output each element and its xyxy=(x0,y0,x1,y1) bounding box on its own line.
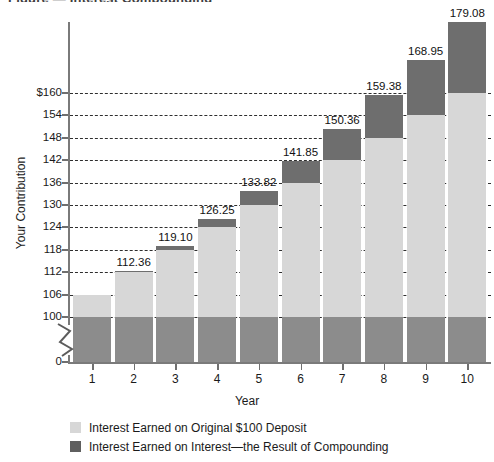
bar-value-label: 141.85 xyxy=(273,146,329,158)
bar-segment-interest-on-interest xyxy=(282,161,320,183)
bar-value-label: 133.82 xyxy=(231,176,287,188)
x-axis-line xyxy=(68,362,491,364)
bar-segment-principal xyxy=(156,317,194,362)
y-axis-line xyxy=(68,22,70,325)
bar-year-5 xyxy=(240,191,278,362)
bar-segment-original-deposit xyxy=(282,183,320,317)
bar-value-label: 112.36 xyxy=(106,256,162,268)
bar-segment-original-deposit xyxy=(407,115,445,317)
bar-segment-interest-on-interest xyxy=(407,60,445,116)
bar-segment-original-deposit xyxy=(323,160,361,317)
x-tick-mark xyxy=(217,364,219,370)
x-tick-mark xyxy=(384,364,386,370)
bar-segment-original-deposit xyxy=(156,250,194,317)
y-tick-label: 112 xyxy=(2,266,62,277)
bar-segment-interest-on-interest xyxy=(198,219,236,227)
bar-segment-interest-on-interest xyxy=(448,22,486,93)
bar-segment-interest-on-interest xyxy=(323,129,361,160)
x-tick-mark xyxy=(342,364,344,370)
legend-swatch-light-icon xyxy=(70,422,81,433)
y-tick-label: 130 xyxy=(2,199,62,210)
bar-segment-principal xyxy=(323,317,361,362)
x-tick-label: 10 xyxy=(442,372,492,386)
y-tick-label: 106 xyxy=(2,289,62,300)
bar-segment-principal xyxy=(365,317,403,362)
y-tick-label: 124 xyxy=(2,221,62,232)
x-tick-mark xyxy=(426,364,428,370)
x-tick-mark xyxy=(134,364,136,370)
legend-label-dark: Interest Earned on Interest—the Result o… xyxy=(89,440,389,454)
bar-segment-original-deposit xyxy=(448,93,486,317)
bar-segment-original-deposit xyxy=(198,227,236,317)
bar-segment-principal xyxy=(407,317,445,362)
bar-segment-interest-on-interest xyxy=(240,191,278,205)
y-tick-label: 148 xyxy=(2,132,62,143)
bar-segment-original-deposit xyxy=(365,138,403,317)
bar-segment-original-deposit xyxy=(115,272,153,317)
bar-value-label: 159.38 xyxy=(356,80,412,92)
y-tick-label: 154 xyxy=(2,109,62,120)
bar-year-6 xyxy=(282,161,320,362)
bar-value-label: 179.08 xyxy=(439,7,494,19)
x-axis-title: Year xyxy=(0,394,494,408)
axis-break-icon xyxy=(56,322,82,358)
y-tick-label: 0 xyxy=(2,356,62,367)
bar-segment-original-deposit xyxy=(240,205,278,317)
legend-swatch-dark-icon xyxy=(70,441,81,452)
bar-year-10 xyxy=(448,22,486,362)
chart-figure: Figure — Interest Compounding $160154148… xyxy=(0,0,494,462)
bar-segment-original-deposit xyxy=(73,295,111,317)
bar-segment-principal xyxy=(198,317,236,362)
bar-year-3 xyxy=(156,246,194,362)
y-axis-title: Your Contribution xyxy=(14,138,28,268)
bar-segment-principal xyxy=(448,317,486,362)
bar-segment-principal xyxy=(240,317,278,362)
x-tick-mark xyxy=(175,364,177,370)
legend-item-light: Interest Earned on Original $100 Deposit xyxy=(70,419,490,436)
bar-year-2 xyxy=(115,271,153,362)
bar-year-8 xyxy=(365,95,403,362)
bar-segment-principal xyxy=(282,317,320,362)
x-tick-mark xyxy=(92,364,94,370)
bar-value-label: 168.95 xyxy=(398,45,454,57)
bar-value-label: 126.25 xyxy=(189,204,245,216)
bar-value-label: 150.36 xyxy=(314,114,370,126)
bar-year-7 xyxy=(323,129,361,362)
x-tick-mark xyxy=(259,364,261,370)
bar-segment-interest-on-interest xyxy=(365,95,403,137)
y-tick-label: 142 xyxy=(2,154,62,165)
bar-year-4 xyxy=(198,219,236,362)
x-tick-mark xyxy=(467,364,469,370)
y-tick-label: 118 xyxy=(2,244,62,255)
bar-value-label: 119.10 xyxy=(147,231,203,243)
y-tick-label: 136 xyxy=(2,177,62,188)
y-tick-label: 100 xyxy=(2,311,62,322)
x-tick-mark xyxy=(301,364,303,370)
y-tick-label: $160 xyxy=(2,87,62,98)
chart-legend: Interest Earned on Original $100 Deposit… xyxy=(70,419,490,457)
bar-year-9 xyxy=(407,60,445,362)
plot-area: $1601541481421361301241181121061000 112.… xyxy=(0,0,494,462)
legend-item-dark: Interest Earned on Interest—the Result o… xyxy=(70,438,490,455)
bar-segment-principal xyxy=(115,317,153,362)
legend-label-light: Interest Earned on Original $100 Deposit xyxy=(89,421,306,435)
